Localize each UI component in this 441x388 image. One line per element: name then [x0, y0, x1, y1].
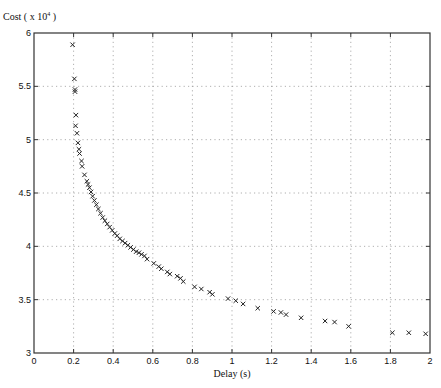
x-tick-label: 1: [229, 356, 234, 366]
scatter-chart: 00.20.40.60.811.21.41.61.8233.544.555.56…: [0, 0, 441, 388]
data-point-x-marker: [181, 279, 185, 283]
data-point-x-marker: [234, 299, 238, 303]
data-point-x-marker: [80, 164, 84, 168]
data-point-x-marker: [79, 159, 83, 163]
data-point-x-marker: [72, 77, 76, 81]
data-point-x-marker: [192, 285, 196, 289]
y-tick-label: 3.5: [18, 295, 31, 305]
data-point-x-marker: [210, 292, 214, 296]
data-point-x-marker: [199, 287, 203, 291]
data-point-x-marker: [92, 198, 96, 202]
axis-ticks: 00.20.40.60.811.21.41.61.8233.544.555.56: [18, 28, 432, 366]
x-tick-label: 1.2: [265, 356, 278, 366]
data-point-x-marker: [423, 332, 427, 336]
data-point-x-marker: [77, 151, 81, 155]
x-axis-title: Delay (s): [214, 368, 251, 380]
x-tick-label: 0.6: [147, 356, 160, 366]
x-tick-label: 0: [31, 356, 36, 366]
data-point-x-marker: [256, 306, 260, 310]
x-tick-label: 0.4: [107, 356, 120, 366]
y-tick-label: 6: [26, 28, 31, 38]
data-point-x-marker: [98, 211, 102, 215]
x-tick-label: 1.8: [384, 356, 397, 366]
x-tick-label: 2: [427, 356, 432, 366]
data-point-x-marker: [279, 310, 283, 314]
grid-lines: [34, 33, 430, 353]
data-point-x-marker: [82, 173, 86, 177]
data-point-x-marker: [105, 222, 109, 226]
data-point-x-marker: [75, 131, 79, 135]
data-point-x-marker: [145, 257, 149, 261]
y-tick-label: 4.5: [18, 188, 31, 198]
data-point-x-marker: [284, 312, 288, 316]
x-tick-label: 1.4: [305, 356, 318, 366]
y-axis-title-suffix: ): [50, 11, 56, 23]
data-point-x-marker: [241, 302, 245, 306]
data-point-x-marker: [407, 331, 411, 335]
data-point-x-marker: [77, 147, 81, 151]
data-point-x-marker: [323, 319, 327, 323]
y-tick-label: 5: [26, 135, 31, 145]
data-point-x-marker: [346, 324, 350, 328]
y-tick-label: 5.5: [18, 81, 31, 91]
data-point-x-marker: [74, 113, 78, 117]
data-point-x-marker: [152, 261, 156, 265]
data-point-x-marker: [90, 194, 94, 198]
x-tick-label: 0.8: [186, 356, 199, 366]
y-axis-title-text: Cost ( x 10: [3, 11, 47, 23]
data-point-x-marker: [159, 267, 163, 271]
x-tick-label: 0.2: [67, 356, 80, 366]
data-point-x-marker: [299, 316, 303, 320]
data-point-x-marker: [390, 331, 394, 335]
data-points: [70, 43, 427, 336]
data-point-x-marker: [226, 296, 230, 300]
data-point-x-marker: [73, 124, 77, 128]
y-tick-label: 3: [26, 348, 31, 358]
y-axis-title: Cost ( x 104 ): [3, 11, 56, 23]
y-tick-label: 4: [26, 241, 31, 251]
data-point-x-marker: [168, 272, 172, 276]
x-tick-label: 1.6: [345, 356, 358, 366]
data-point-x-marker: [76, 141, 80, 145]
data-point-x-marker: [271, 309, 275, 313]
data-point-x-marker: [70, 43, 74, 47]
data-point-x-marker: [94, 203, 98, 207]
data-point-x-marker: [89, 190, 93, 194]
data-point-x-marker: [96, 207, 100, 211]
data-point-x-marker: [332, 320, 336, 324]
